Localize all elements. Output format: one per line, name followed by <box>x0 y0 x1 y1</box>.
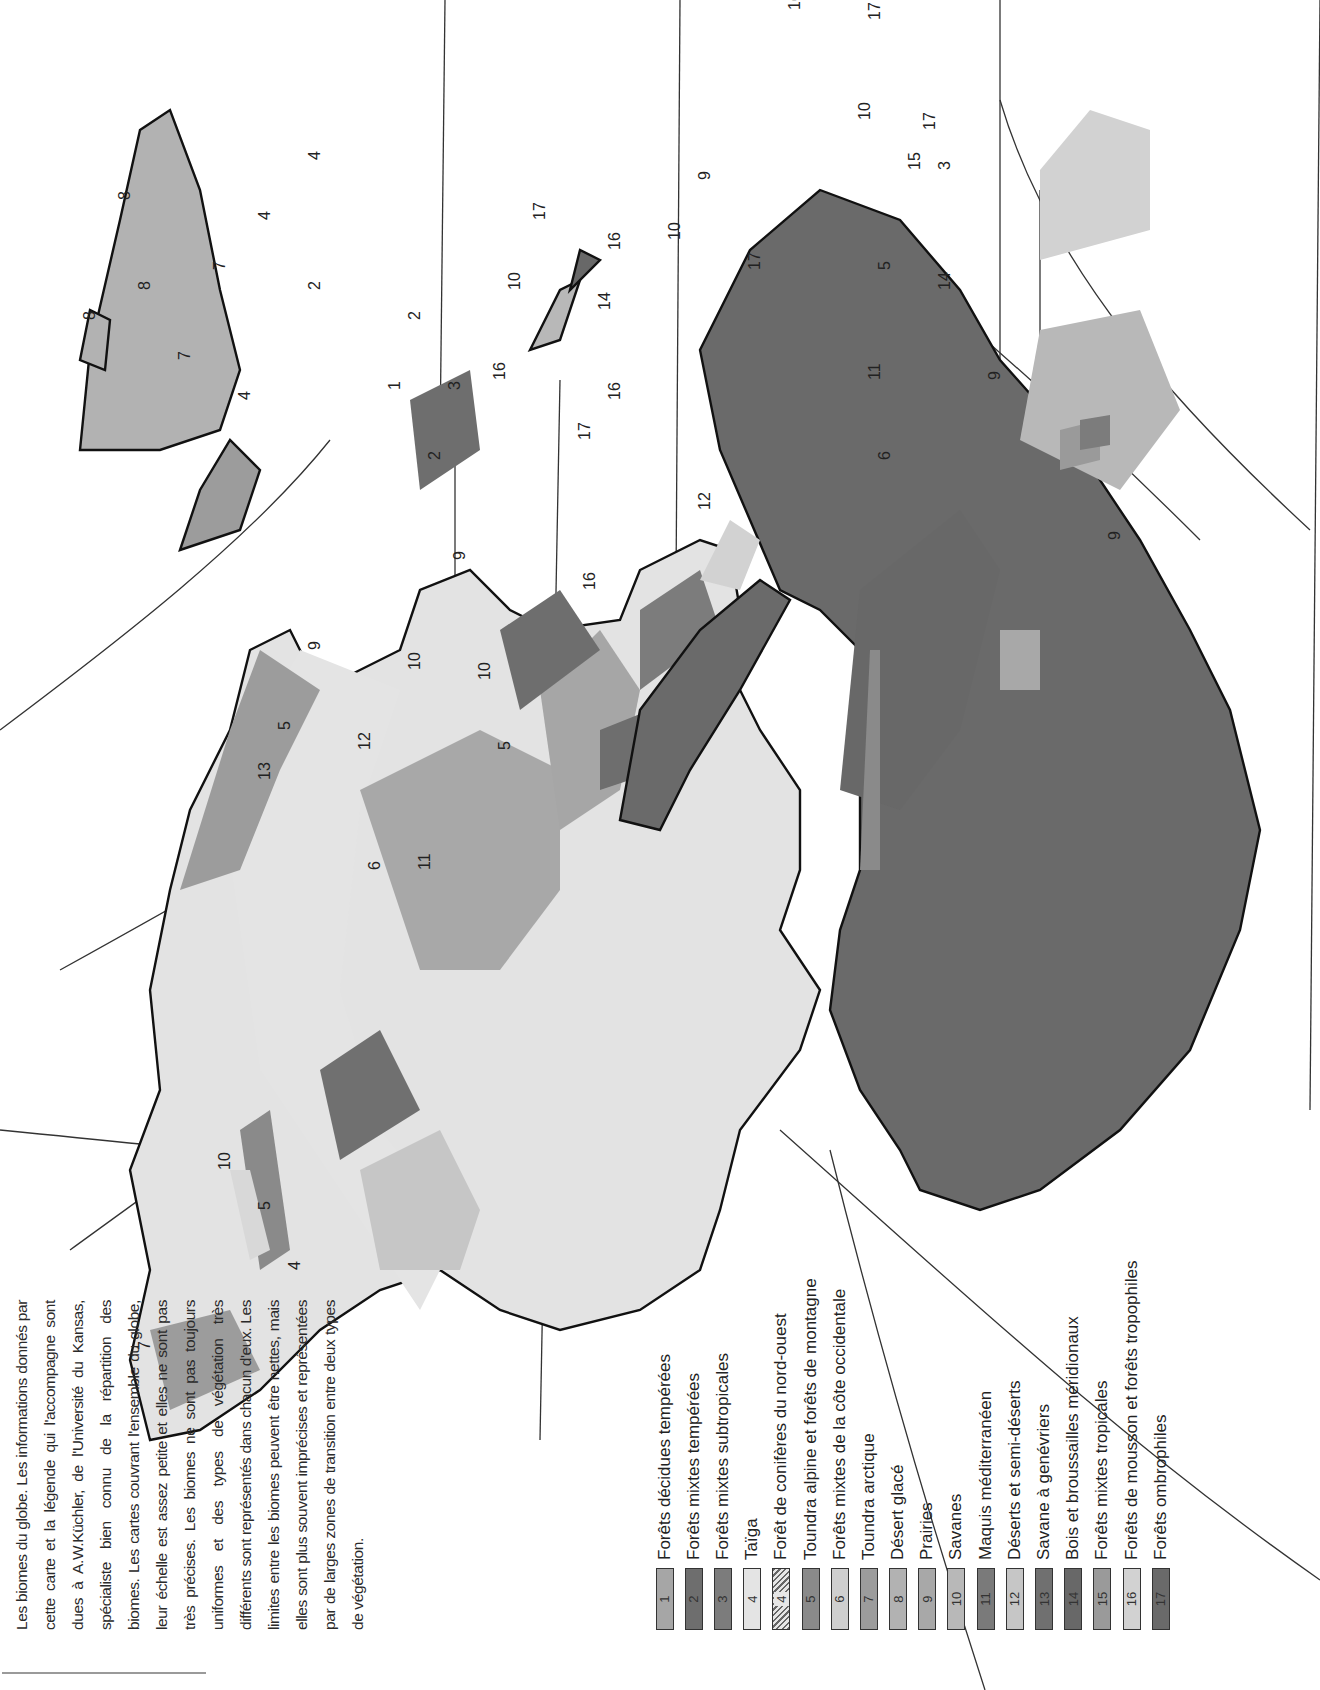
label-colorado-plateau: 5 <box>276 721 293 730</box>
legend-label: Prairies <box>917 1502 937 1560</box>
label-greenland: 8 <box>116 191 133 200</box>
legend-item: 16Forêts de mousson et forêts tropophile… <box>1117 1110 1146 1630</box>
swatch-13: 13 <box>1035 1568 1053 1630</box>
label-atlantic-south: 17 <box>921 112 938 130</box>
label-great-plains: 9 <box>306 641 323 650</box>
swatch-4-hatched: 4 <box>772 1568 790 1630</box>
label-sierra-madre: 5 <box>496 741 513 750</box>
label-great-lakes: 2 <box>306 281 323 290</box>
label-peru-chile: 12 <box>696 492 713 510</box>
label-baffin: 8 <box>81 311 98 320</box>
legend-label: Forêts mixtes subtropicales <box>713 1353 733 1560</box>
label-canada-10: 10 <box>216 1152 233 1170</box>
page-rule <box>0 1638 205 1640</box>
label-s-brazil: 3 <box>936 161 953 170</box>
label-yucatan: 16 <box>491 362 508 380</box>
legend-item: 14Bois et broussailles méridionaux <box>1059 1110 1088 1630</box>
page-divider <box>2 1672 206 1674</box>
swatch-4: 4 <box>743 1568 761 1630</box>
legend-item: 13Savane à genévriers <box>1029 1110 1058 1630</box>
legend-item: 7Toundra arctique <box>854 1110 883 1630</box>
legend-label: Forêts mixtes tropicales <box>1092 1381 1112 1561</box>
label-falklands: 9 <box>1106 531 1123 540</box>
legend-label: Forêts décidues tempérées <box>655 1354 675 1560</box>
label-se-brazil: 15 <box>906 152 923 170</box>
swatch-9: 9 <box>918 1568 936 1630</box>
label-pampas: 9 <box>986 371 1003 380</box>
swatch-10: 10 <box>947 1568 965 1630</box>
legend-item: 5Toundra alpine et forêts de montagne <box>796 1110 825 1630</box>
legend-label: Savanes <box>946 1494 966 1560</box>
legend-item: 1Forêts décidues tempérées <box>650 1110 679 1630</box>
legend-item: 4Taïga <box>738 1110 767 1630</box>
legend-label: Déserts et semi-déserts <box>1005 1381 1025 1561</box>
legend-item: 8Désert glacé <box>884 1110 913 1630</box>
legend-label: Maquis méditerranéen <box>976 1391 996 1560</box>
label-eastern-us: 1 <box>386 381 403 390</box>
legend-label: Toundra alpine et forêts de montagne <box>801 1278 821 1560</box>
label-ecuador: 16 <box>606 382 623 400</box>
swatch-2: 2 <box>685 1568 703 1630</box>
label-cuba: 10 <box>506 272 523 290</box>
label-california: 11 <box>416 853 433 870</box>
legend-label: Savane à genévriers <box>1034 1404 1054 1560</box>
label-n-canada: 7 <box>176 351 193 360</box>
swatch-5: 5 <box>802 1568 820 1630</box>
label-venezuela: 16 <box>606 232 623 250</box>
swatch-16: 16 <box>1123 1568 1141 1630</box>
legend-item: 11Maquis méditerranéen <box>971 1110 1000 1630</box>
legend-label: Forêt de conifères du nord-ouest <box>771 1313 791 1560</box>
label-s-chile: 6 <box>876 451 893 460</box>
label-mexico: 10 <box>406 652 423 670</box>
legend-item: 9Prairies <box>913 1110 942 1630</box>
label-caribbean-islands: 17 <box>531 202 548 220</box>
label-arctic-islands: 7 <box>211 261 228 270</box>
swatch-7: 7 <box>860 1568 878 1630</box>
label-chaco: 14 <box>936 272 953 290</box>
label-andes: 5 <box>876 261 893 270</box>
swatch-12: 12 <box>1006 1568 1024 1630</box>
label-rockies: 5 <box>256 1201 273 1210</box>
legend-item: 4Forêt de conifères du nord-ouest <box>767 1110 796 1630</box>
legend-item: 2Forêts mixtes tempérées <box>679 1110 708 1630</box>
legend-label: Forêts ombrophiles <box>1151 1414 1171 1560</box>
swatch-8: 8 <box>889 1568 907 1630</box>
legend-item: 6Forêts mixtes de la côte occidentale <box>825 1110 854 1630</box>
label-southeast-us: 3 <box>446 381 463 390</box>
label-amazon-enclave: 9 <box>696 171 713 180</box>
label-appalachians: 2 <box>426 451 443 460</box>
label-ne-brazil: 16 <box>786 0 803 10</box>
legend-item: 10Savanes <box>942 1110 971 1630</box>
swatch-6: 6 <box>831 1568 849 1630</box>
label-canadian-taiga: 4 <box>236 391 253 400</box>
legend-label: Bois et broussailles méridionaux <box>1063 1316 1083 1560</box>
label-amazon: 17 <box>746 252 763 270</box>
label-central-chile: 11 <box>866 363 883 380</box>
swatch-14: 14 <box>1064 1568 1082 1630</box>
rotated-page: 8 8 8 7 7 7 4 4 4 4 10 5 2 2 2 1 3 9 9 1… <box>0 0 1320 1690</box>
label-sw-deserts: 12 <box>356 732 373 750</box>
legend-label: Toundra arctique <box>859 1433 879 1560</box>
label-california-coast: 6 <box>366 861 383 870</box>
legend-label: Forêts de mousson et forêts tropophiles <box>1122 1260 1142 1560</box>
label-ca-pacific: 16 <box>581 572 598 590</box>
intro-paragraph: Les biomes du globe. Les informations do… <box>8 1300 372 1630</box>
swatch-3: 3 <box>714 1568 732 1630</box>
legend-item: 3Forêts mixtes subtropicales <box>708 1110 737 1630</box>
label-atlantic-north: 17 <box>866 2 883 20</box>
label-northeast: 2 <box>406 311 423 320</box>
swatch-11: 11 <box>977 1568 995 1630</box>
label-ellesmere: 8 <box>136 281 153 290</box>
legend-label: Désert glacé <box>888 1465 908 1560</box>
legend-item: 15Forêts mixtes tropicales <box>1088 1110 1117 1630</box>
label-cerrado: 10 <box>856 102 873 120</box>
label-newfoundland: 4 <box>306 151 323 160</box>
legend-item: 17Forêts ombrophiles <box>1146 1110 1175 1630</box>
label-central-america: 17 <box>576 422 593 440</box>
biome-legend: 1Forêts décidues tempérées 2Forêts mixte… <box>650 1110 1175 1630</box>
legend-label: Forêts mixtes de la côte occidentale <box>830 1289 850 1560</box>
legend-label: Forêts mixtes tempérées <box>684 1373 704 1560</box>
legend-label: Taïga <box>742 1518 762 1560</box>
swatch-17: 17 <box>1152 1568 1170 1630</box>
label-mexico-east: 10 <box>476 662 493 680</box>
